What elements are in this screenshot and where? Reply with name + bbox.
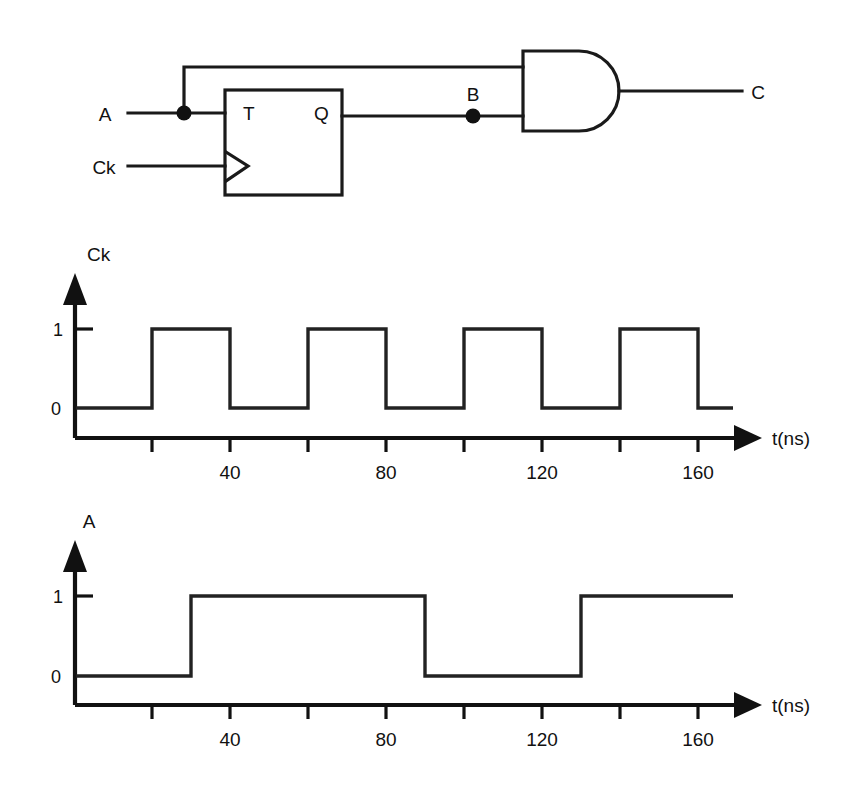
ck-waveform-path [76,329,733,408]
ck-tick-label-40: 40 [219,462,240,483]
a-label-low: 0 [51,667,61,687]
ck-time-axis-label: t(ns) [772,428,810,449]
a-axis-label: A [83,511,96,532]
a-tick-label-160: 160 [682,729,714,750]
clock-edge-triangle-icon [226,152,248,181]
label-node-b: B [467,84,480,105]
a-waveform-path [76,596,733,676]
a-tick-label-120: 120 [526,729,558,750]
ck-tick-label-80: 80 [375,462,396,483]
ck-xticks [152,438,698,452]
a-tick-label-80: 80 [375,729,396,750]
a-tick-label-40: 40 [219,729,240,750]
a-label-high: 1 [53,587,63,607]
ck-y-axis-arrow [63,273,87,305]
ck-label-low: 0 [51,399,61,419]
and-gate [523,51,619,131]
ck-label-high: 1 [53,320,63,340]
junction-dot-a [177,106,192,121]
label-ff-t: T [243,103,255,124]
label-output-c: C [751,82,765,103]
label-input-a: A [99,104,112,125]
label-ff-q: Q [314,103,329,124]
ck-x-axis-arrow [734,425,762,451]
a-time-axis-label: t(ns) [772,695,810,716]
a-x-axis-arrow [734,692,762,718]
ck-tick-label-160: 160 [682,462,714,483]
a-y-axis-arrow [63,540,87,572]
a-timing-chart: A 1 0 40 80 120 160 t(ns) [0,500,846,760]
circuit-diagram: A Ck T Q B C [0,0,846,230]
ck-tick-label-120: 120 [526,462,558,483]
ck-axis-label: Ck [87,244,111,265]
label-input-ck: Ck [92,157,116,178]
ck-timing-chart: Ck 1 0 40 80 120 160 t(ns) [0,233,846,493]
figure-canvas: A Ck T Q B C Ck 1 0 40 [0,0,846,793]
junction-dot-b [466,109,481,124]
